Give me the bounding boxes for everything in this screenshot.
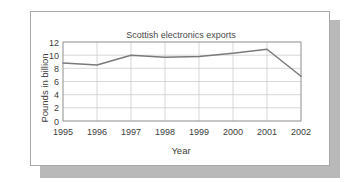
- y-tick-6: 6: [54, 77, 59, 87]
- y-tick-labels: 12 10 8 6 4 2 0: [49, 38, 59, 127]
- y-tick-2: 2: [54, 103, 59, 113]
- chart-title: Scottish electronics exports: [126, 30, 236, 40]
- line-chart: Scottish electronics exports Pounds in b…: [31, 12, 331, 167]
- horizontal-gridlines: [63, 42, 301, 121]
- x-tick-2001: 2001: [257, 127, 277, 137]
- y-axis-title: Pounds in billion: [39, 53, 50, 122]
- x-tick-1995: 1995: [53, 127, 73, 137]
- x-tick-1999: 1999: [189, 127, 209, 137]
- y-tick-12: 12: [49, 38, 59, 48]
- x-tick-labels: 1995 1996 1997 1998 1999 2000 2001 2002: [53, 127, 311, 137]
- y-tick-0: 0: [54, 117, 59, 127]
- y-tick-4: 4: [54, 90, 59, 100]
- chart-svg: Scottish electronics exports Pounds in b…: [31, 12, 331, 167]
- series-line-scottish-electronics-exports: [63, 49, 301, 76]
- screenshot-stage: Scottish electronics exports Pounds in b…: [0, 0, 344, 182]
- y-tick-10: 10: [49, 51, 59, 61]
- y-tick-8: 8: [54, 64, 59, 74]
- x-tick-2000: 2000: [223, 127, 243, 137]
- x-tick-1996: 1996: [87, 127, 107, 137]
- x-tick-1998: 1998: [155, 127, 175, 137]
- x-tick-2002: 2002: [291, 127, 311, 137]
- x-axis-title: Year: [171, 145, 190, 156]
- x-tick-1997: 1997: [121, 127, 141, 137]
- chart-card: Scottish electronics exports Pounds in b…: [30, 11, 330, 166]
